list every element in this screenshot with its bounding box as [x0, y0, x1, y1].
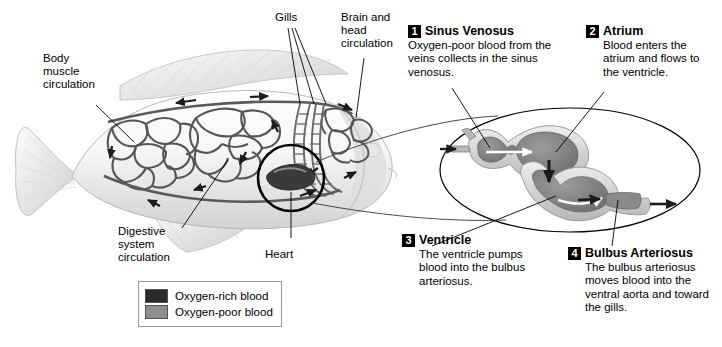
- callout-sinus-venosus: 1 Sinus Venosus Oxygen-poor blood from t…: [408, 24, 568, 79]
- legend-item: Oxygen-poor blood: [145, 305, 273, 319]
- heart-detail-inset: [432, 88, 700, 246]
- callout-number-badge: 1: [408, 25, 421, 38]
- callout-title: Bulbus Arteriosus: [585, 246, 693, 260]
- label-heart: Heart: [265, 248, 293, 261]
- callout-body: Oxygen-poor blood from the veins collect…: [408, 39, 568, 79]
- legend-swatch-oxygen-rich: [145, 289, 168, 303]
- bulbus-arteriosus-lumen: [606, 193, 641, 210]
- callout-title: Ventricle: [419, 233, 471, 247]
- callout-ventricle: 3 Ventricle The ventricle pumps blood in…: [402, 233, 530, 288]
- callout-body: The ventricle pumps blood into the bulbu…: [419, 248, 530, 288]
- label-body-muscle-circulation: Body muscle circulation: [43, 52, 95, 92]
- callout-number-badge: 4: [568, 247, 581, 260]
- callout-title: Atrium: [603, 24, 643, 38]
- label-gills: Gills: [275, 11, 297, 24]
- legend-item: Oxygen-rich blood: [145, 289, 273, 303]
- legend-label: Oxygen-rich blood: [175, 290, 268, 303]
- legend-label: Oxygen-poor blood: [175, 306, 273, 319]
- label-brain-and-head-circulation: Brain and head circulation: [341, 11, 393, 51]
- legend: Oxygen-rich blood Oxygen-poor blood: [138, 281, 282, 327]
- callout-number-badge: 3: [402, 234, 415, 247]
- diagram-canvas: Body muscle circulation Gills Brain and …: [0, 0, 722, 347]
- callout-number-badge: 2: [586, 25, 599, 38]
- callout-body: Blood enters the atrium and flows to the…: [603, 39, 704, 79]
- callout-bulbus-arteriosus: 4 Bulbus Arteriosus The bulbus arteriosu…: [568, 246, 710, 315]
- callout-body: The bulbus arteriosus moves blood into t…: [585, 261, 710, 315]
- label-digestive-system-circulation: Digestive system circulation: [118, 225, 170, 265]
- callout-atrium: 2 Atrium Blood enters the atrium and flo…: [586, 24, 704, 79]
- legend-swatch-oxygen-poor: [145, 305, 168, 319]
- callout-title: Sinus Venosus: [425, 24, 514, 38]
